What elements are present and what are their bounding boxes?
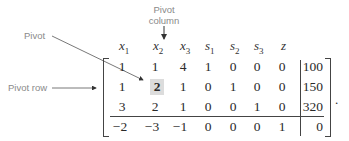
cell: 0 [221,119,245,135]
cell: 1 [171,99,195,115]
cell: 0 [245,79,269,95]
right-bracket-vertical [330,58,331,137]
header-s2: s2 [230,38,240,56]
rhs-cell: 150 [293,79,323,95]
cell: 0 [221,59,245,75]
right-bracket-top [325,58,331,59]
cell: 0 [221,99,245,115]
cell: 1 [270,119,294,135]
right-bracket-bottom [325,136,331,137]
left-bracket-bottom [103,136,109,137]
trailing-period: . [335,92,338,108]
cell: 0 [196,79,220,95]
left-bracket-top [103,58,109,59]
rhs-cell: 320 [293,99,323,115]
cell: −3 [140,119,164,135]
header-x3: x3 [180,38,190,56]
cell: 4 [171,59,195,75]
cell: 1 [110,59,134,75]
cell: 2 [143,99,167,115]
header-x1: x1 [119,38,129,56]
rhs-cell: 100 [293,59,323,75]
header-z: z [281,38,286,56]
header-x2: x2 [153,38,163,56]
cell: 1 [143,59,167,75]
cell: 0 [270,99,294,115]
cell: −2 [108,119,132,135]
cell: −1 [168,119,192,135]
objective-row-divider [110,116,324,117]
header-s1: s1 [205,38,215,56]
cell: 1 [171,79,195,95]
pivot-element: 2 [150,79,164,95]
cell: 1 [221,79,245,95]
cell: 0 [245,59,269,75]
cell: 1 [196,59,220,75]
cell: 3 [110,99,134,115]
cell: 0 [270,79,294,95]
cell: 1 [245,99,269,115]
cell: 0 [245,119,269,135]
left-bracket-vertical [103,58,104,137]
cell: 0 [196,99,220,115]
rhs-cell: 0 [293,119,323,135]
cell: 1 [110,79,134,95]
header-s3: s3 [254,38,264,56]
cell: 0 [270,59,294,75]
cell: 0 [196,119,220,135]
